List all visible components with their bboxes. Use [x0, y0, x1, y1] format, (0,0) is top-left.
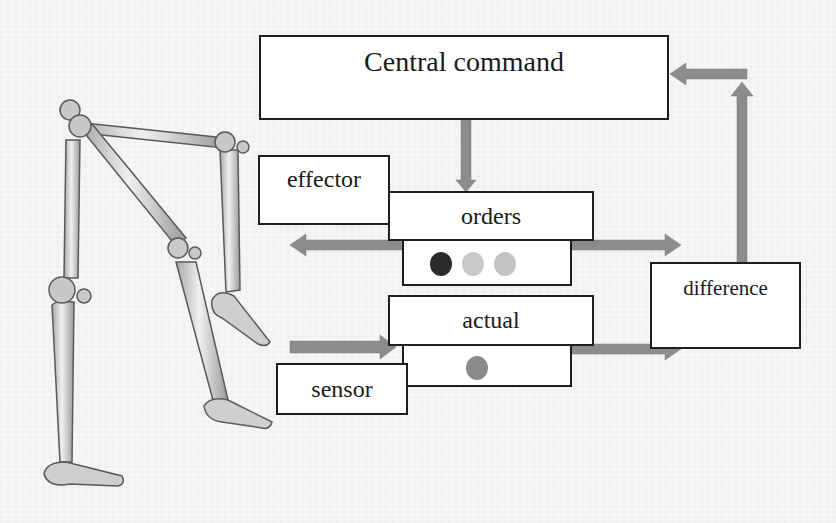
- arrow-central-to-orders: [456, 120, 476, 192]
- actual-indicator-panel: [402, 346, 572, 387]
- arrow-difference-up: [731, 82, 753, 262]
- orders-indicator-dot-inactive: [494, 252, 516, 276]
- actual-indicator-dot: [466, 356, 488, 380]
- central-command-label: Central command: [364, 46, 564, 78]
- orders-box: orders: [388, 191, 594, 241]
- actual-box: actual: [388, 295, 594, 346]
- arrow-to-central-command: [670, 63, 747, 85]
- arrow-sensor-to-actual: [290, 335, 396, 359]
- effector-label: effector: [287, 166, 361, 193]
- difference-label: difference: [683, 276, 768, 301]
- orders-indicator-panel: [402, 241, 572, 286]
- sensor-box: sensor: [276, 363, 408, 415]
- effector-box: effector: [258, 155, 390, 225]
- orders-indicator-dot-inactive: [462, 252, 484, 276]
- actual-label: actual: [462, 307, 519, 334]
- arrow-orders-to-effector: [290, 234, 402, 256]
- orders-label: orders: [461, 203, 521, 230]
- orders-indicator-dot-active: [430, 252, 452, 276]
- sensor-label: sensor: [311, 376, 372, 403]
- central-command-box: Central command: [259, 35, 669, 120]
- difference-box: difference: [650, 262, 801, 349]
